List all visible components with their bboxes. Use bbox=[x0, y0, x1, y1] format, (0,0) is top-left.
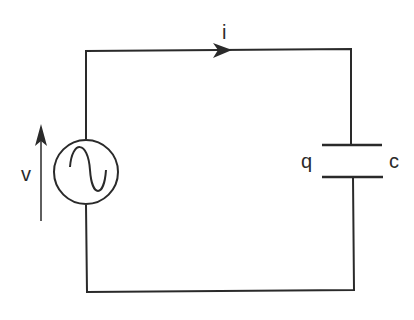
bottom-wire bbox=[86, 177, 354, 292]
current-label: i bbox=[222, 22, 226, 42]
capacitance-label: c bbox=[389, 151, 399, 171]
ac-source bbox=[54, 140, 118, 204]
charge-label: q bbox=[301, 151, 312, 171]
circuit-diagram bbox=[0, 0, 414, 320]
top-wire bbox=[86, 49, 351, 145]
voltage-label: v bbox=[21, 164, 31, 184]
sine-wave-icon bbox=[70, 147, 106, 191]
